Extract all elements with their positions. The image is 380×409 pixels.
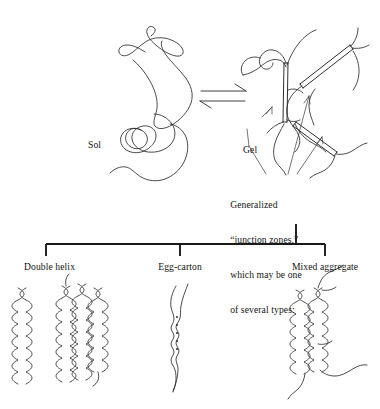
helix-cluster-a xyxy=(56,286,76,382)
helix-single xyxy=(12,288,32,384)
caption-line-2: “junction zones,” xyxy=(230,234,302,246)
gel-network xyxy=(241,28,369,178)
diagram-artwork xyxy=(0,0,380,409)
caption-leader-lines xyxy=(247,96,323,174)
double-helix-illustration xyxy=(12,274,108,386)
figure-canvas: Sol Gel Generalized “junction zones,” wh… xyxy=(0,0,380,409)
sol-coil-lower xyxy=(110,114,188,181)
egg-carton-illustration xyxy=(171,284,188,392)
equilibrium-arrow-icon xyxy=(200,84,246,108)
gel-label: Gel xyxy=(243,144,257,155)
sol-label: Sol xyxy=(88,139,101,150)
branch-label-egg-carton: Egg-carton xyxy=(158,261,202,272)
branch-label-mixed-aggregate: Mixed aggregate xyxy=(292,261,358,272)
junction-zone-upper-right xyxy=(300,45,353,88)
junction-zones-caption: Generalized “junction zones,” which may … xyxy=(230,176,302,338)
branch-label-double-helix: Double helix xyxy=(24,261,75,272)
sol-coil-upper xyxy=(119,26,192,128)
caption-line-1: Generalized xyxy=(230,199,302,211)
caption-line-4: of several types: xyxy=(230,304,302,316)
aggregate-helix-right xyxy=(308,288,328,372)
